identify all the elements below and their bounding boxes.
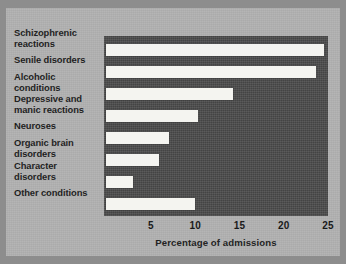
- bar-senile-disorders: [106, 66, 316, 78]
- category-label-character-disorders: Character disorders: [14, 161, 106, 182]
- bar-alcoholic-conditions: [106, 88, 233, 100]
- x-tick-25: 25: [322, 220, 334, 231]
- category-label-schizophrenic-reactions: Schizophrenic reactions: [14, 28, 106, 49]
- category-label-alcoholic-conditions: Alcoholic conditions: [14, 72, 106, 93]
- category-label-depressive-and-manic-reactions: Depressive and manic reactions: [14, 94, 106, 115]
- x-tick-20: 20: [278, 220, 290, 231]
- category-axis-labels: Schizophrenic reactions Senile disorders…: [14, 28, 106, 218]
- bar-neuroses: [106, 132, 169, 144]
- bar-depressive-and-manic-reactions: [106, 110, 198, 122]
- x-tick-5: 5: [148, 220, 154, 231]
- bar-schizophrenic-reactions: [106, 44, 324, 56]
- category-label-organic-brain-disorders: Organic brain disorders: [14, 138, 106, 159]
- x-tick-10: 10: [189, 220, 201, 231]
- x-axis: 5 10 15 20 25: [104, 217, 328, 233]
- category-label-senile-disorders: Senile disorders: [14, 55, 106, 66]
- category-label-other-conditions: Other conditions: [14, 188, 106, 199]
- category-label-neuroses: Neuroses: [14, 121, 106, 132]
- chart-figure: Schizophrenic reactions Senile disorders…: [0, 0, 346, 264]
- chart-panel: Schizophrenic reactions Senile disorders…: [6, 8, 340, 256]
- bar-other-conditions: [106, 198, 195, 210]
- x-axis-title: Percentage of admissions: [104, 237, 328, 248]
- bar-organic-brain-disorders: [106, 154, 159, 166]
- bar-character-disorders: [106, 176, 133, 188]
- plot-area: [104, 36, 328, 216]
- x-tick-15: 15: [234, 220, 246, 231]
